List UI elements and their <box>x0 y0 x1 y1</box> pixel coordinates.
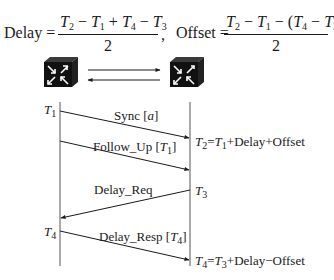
delay-req-label: Delay_Req <box>94 182 152 198</box>
switch-icon <box>170 57 204 87</box>
t4-equation: T4=T3+Delay−Offset <box>195 253 305 270</box>
switch-icon <box>44 57 78 87</box>
sync-label: Sync [a] <box>114 108 158 124</box>
t1-label: T1 <box>44 102 56 119</box>
t2-equation: T2=T1+Delay+Offset <box>195 134 305 151</box>
delay-resp-label: Delay_Resp [T4] <box>99 229 187 246</box>
t4-label: T4 <box>44 224 56 241</box>
t3-label: T3 <box>195 183 207 200</box>
follow-up-label: Follow_Up [T1] <box>93 139 176 156</box>
